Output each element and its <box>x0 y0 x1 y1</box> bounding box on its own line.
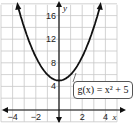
axes <box>2 1 126 123</box>
curve-left-arrowhead <box>15 2 21 10</box>
y-tick-label: 16 <box>46 11 56 21</box>
y-tick-label: 8 <box>51 58 56 68</box>
y-tick-label: 4 <box>51 81 56 91</box>
y-tick-label: 12 <box>46 34 56 44</box>
curve-right-arrowhead <box>97 2 103 10</box>
x-tick-label: 4 <box>103 112 108 122</box>
y-axis-label: y <box>62 3 67 13</box>
parabola-chart: −4−224481216xy <box>0 0 136 125</box>
x-axis-right-arrow <box>120 107 126 113</box>
x-tick-label: 2 <box>80 112 85 122</box>
x-tick-label: −4 <box>7 112 17 122</box>
x-axis-label: x <box>111 112 116 122</box>
x-tick-label: −2 <box>31 112 41 122</box>
function-label: g(x) = x² + 5 <box>73 81 133 99</box>
